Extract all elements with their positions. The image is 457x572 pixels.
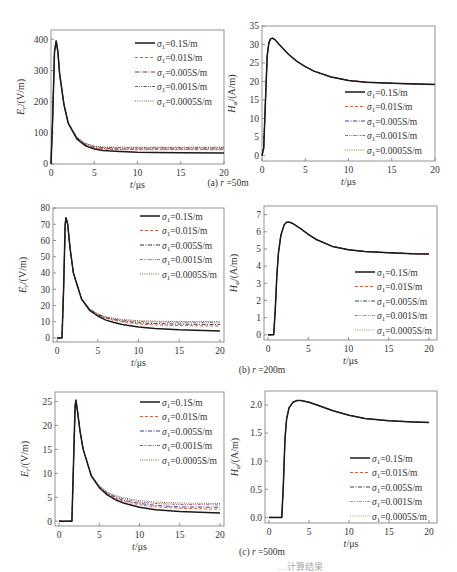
y-tick-label: 40 [41,268,51,278]
legend-entry: σ1=0.1S/m [157,39,198,51]
x-tick-label: 5 [97,530,102,540]
legend-entry: σ1=0.0005S/m [162,456,218,468]
x-tick-label: 20 [424,527,434,537]
y-tick-label: 15 [43,445,53,455]
legend-entry: σ1=0.005S/m [162,427,213,439]
legend-entry: σ1=0.0005S/m [367,146,423,158]
x-tick-label: 10 [344,527,354,537]
y-tick-label: 1 [256,313,261,323]
legend-entry: σ1=0.01S/m [157,53,203,65]
x-tick-label: 0 [267,527,272,537]
chart-panel-c-left: 051015200510152025t/μsEr/(V/m)σ1=0.1S/mσ… [19,392,286,558]
y-tick-label: 0 [47,517,52,527]
y-tick-label: 3 [256,279,261,289]
y-tick-label: 300 [34,66,49,76]
y-tick-label: 0 [45,333,50,343]
y-axis-ticks: 01234567 [256,210,267,340]
legend: σ1=0.1S/mσ1=0.01S/mσ1=0.005S/mσ1=0.001S/… [135,39,213,109]
y-tick-label: 60 [41,236,51,246]
y-tick-label: 5 [47,493,52,503]
subfigure-caption: (c) r =500m [239,547,286,558]
x-axis-ticks: 05101520 [57,523,225,540]
y-tick-label: 20 [43,421,53,431]
y-axis-ticks: 01020304050607080 [41,203,57,343]
x-tick-label: 5 [303,165,308,175]
legend-entry: σ1=0.1S/m [162,398,203,410]
x-tick-label: 10 [135,530,145,540]
x-tick-label: 20 [430,165,440,175]
y-tick-label: 2 [256,296,261,306]
y-axis-ticks: 05101520253035 [250,21,266,160]
y-axis-label: Hφ/(A/m) [226,74,239,113]
legend-entry: σ1=0.0005S/m [162,270,218,282]
legend-entry: σ1=0.0005S/m [157,97,213,109]
x-axis-ticks: 05101520 [267,520,434,537]
legend-entry: σ1=0.1S/m [377,268,418,280]
y-axis-ticks: 0510152025 [43,397,59,527]
y-tick-label: 200 [34,97,49,107]
x-tick-label: 0 [266,344,271,354]
y-tick-label: 50 [41,252,51,262]
legend-entry: σ1=0.005S/m [377,297,428,309]
legend: σ1=0.1S/mσ1=0.01S/mσ1=0.005S/mσ1=0.001S/… [355,268,433,338]
subfigure-caption: (a) r =50m [207,178,249,189]
y-tick-label: 25 [250,58,260,68]
y-tick-label: 70 [41,220,51,230]
y-tick-label: 5 [256,244,261,254]
y-tick-label: 0 [254,151,259,161]
legend-entry: σ1=0.001S/m [367,131,418,143]
legend-entry: σ1=0.1S/m [372,454,413,466]
chart-panel-b-left: 0510152001020304050607080t/μsEr/(V/m)σ1=… [17,203,286,376]
y-tick-label: 10 [43,469,53,479]
chart-panel-c-right: 051015200.00.51.01.52.0t/μsHφ/(A/m)σ1=0.… [229,391,437,549]
legend-entry: σ1=0.01S/m [162,226,208,238]
y-tick-label: 5 [254,132,259,142]
x-tick-label: 20 [215,346,225,356]
x-tick-label: 15 [387,165,397,175]
y-tick-label: 25 [43,397,53,407]
legend-entry: σ1=0.1S/m [367,88,408,100]
y-tick-label: 80 [41,203,51,213]
x-tick-label: 10 [344,165,354,175]
x-axis-ticks: 05101520 [55,339,225,356]
x-tick-label: 20 [219,168,229,178]
legend-entry: σ1=0.01S/m [162,412,208,424]
x-tick-label: 15 [384,344,394,354]
chart-panel-a-right: 0510152005101520253035t/μsHφ/(A/m)σ1=0.1… [226,21,440,187]
legend-entry: σ1=0.005S/m [157,68,208,80]
y-axis-label: Er/(V/m) [15,79,28,116]
y-tick-label: 20 [41,301,51,311]
x-tick-label: 0 [49,168,54,178]
legend-entry: σ1=0.001S/m [162,441,213,453]
chart-panel-a-left: 051015200100200300400t/μsEr/(V/m)σ1=0.1S… [15,30,249,190]
subfigure-caption: (b) r =200m [239,365,286,376]
y-tick-label: 0.0 [250,513,262,523]
y-tick-label: 10 [250,114,260,124]
x-tick-label: 0 [260,165,265,175]
y-axis-label: Er/(V/m) [17,257,30,294]
legend-entry: σ1=0.0005S/m [377,326,433,338]
x-tick-label: 15 [175,530,185,540]
y-tick-label: 15 [250,95,260,105]
x-tick-label: 10 [134,346,144,356]
legend-entry: σ1=0.001S/m [157,82,208,94]
x-tick-label: 15 [174,346,184,356]
x-tick-label: 20 [424,344,434,354]
legend-entry: σ1=0.1S/m [162,212,203,224]
legend-entry: σ1=0.005S/m [372,483,423,495]
legend-entry: σ1=0.01S/m [377,282,423,294]
x-tick-label: 5 [95,346,100,356]
legend-entry: σ1=0.01S/m [372,468,418,480]
y-tick-label: 0.5 [250,485,262,495]
legend-entry: σ1=0.005S/m [162,241,213,253]
y-tick-label: 1.5 [250,428,262,438]
y-axis-label: Er/(V/m) [19,441,32,478]
y-tick-label: 7 [256,210,261,220]
y-tick-label: 4 [256,261,261,271]
legend: σ1=0.1S/mσ1=0.01S/mσ1=0.005S/mσ1=0.001S/… [140,398,218,468]
x-tick-label: 5 [92,168,97,178]
legend-entry: σ1=0.0005S/m [372,512,428,524]
legend-entry: σ1=0.001S/m [162,255,213,267]
legend-entry: σ1=0.005S/m [367,117,418,129]
x-axis-label: t/μs [131,357,146,368]
